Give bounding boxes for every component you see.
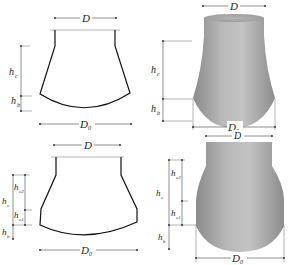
- dimension-top-diameter-d: D: [205, 130, 273, 141]
- label-hc-b: h: [151, 64, 156, 75]
- svg-text:c: c: [15, 73, 18, 79]
- panel-b: D h c h b D 0: [151, 0, 276, 134]
- label-D0-c: D: [80, 244, 89, 256]
- svg-text:b: b: [157, 110, 160, 116]
- dimension-heights-d: h c2 h c h c1 h b: [156, 159, 196, 250]
- dimension-heights-a: h c h b: [9, 45, 32, 112]
- label-D-c: D: [83, 139, 92, 151]
- svg-text:c1: c1: [19, 217, 24, 222]
- tower-outline-c: [40, 157, 137, 235]
- dimension-base-diameter-a: D 0: [39, 117, 132, 131]
- panel-d: D h c2 h c h c1 h b: [156, 130, 285, 265]
- label-D-b: D: [229, 0, 238, 12]
- label-D-d: D: [233, 130, 242, 141]
- svg-text:c2: c2: [19, 189, 24, 194]
- panel-c: D h c2 h c h c1 h b: [2, 138, 138, 257]
- tower-top-ellipse-b: [204, 14, 264, 22]
- label-D0-d: D: [231, 252, 240, 264]
- svg-text:0: 0: [88, 125, 91, 131]
- dimension-top-diameter-c: D: [53, 138, 121, 151]
- tower-shaded-d: [196, 142, 284, 252]
- dimension-base-diameter-c: D 0: [39, 243, 138, 257]
- dimension-top-diameter-b: D: [202, 0, 266, 12]
- label-D-a: D: [81, 12, 90, 24]
- panel-a: D h c h b D 0: [9, 11, 132, 131]
- tower-outline-a: [40, 30, 130, 108]
- svg-text:c: c: [161, 195, 164, 200]
- svg-text:c2: c2: [176, 175, 181, 180]
- dimension-heights-c: h c2 h c h c1 h b: [2, 174, 32, 240]
- label-D0-a: D: [79, 118, 88, 130]
- svg-text:0: 0: [240, 259, 243, 265]
- label-hc-a: h: [9, 66, 14, 77]
- diagram-canvas: D h c h b D 0: [0, 0, 291, 265]
- svg-text:b: b: [17, 102, 20, 108]
- tower-shaded-b: [193, 15, 275, 128]
- label-hb-b: h: [151, 103, 156, 114]
- svg-text:b: b: [163, 239, 166, 244]
- svg-text:b: b: [7, 234, 10, 239]
- svg-text:c: c: [7, 203, 10, 208]
- svg-text:c: c: [157, 71, 160, 77]
- svg-text:0: 0: [89, 251, 92, 257]
- svg-text:c1: c1: [176, 215, 181, 220]
- dimension-top-diameter-a: D: [54, 11, 117, 24]
- label-hb-a: h: [11, 95, 16, 106]
- dimension-heights-b: h c h b: [151, 40, 193, 122]
